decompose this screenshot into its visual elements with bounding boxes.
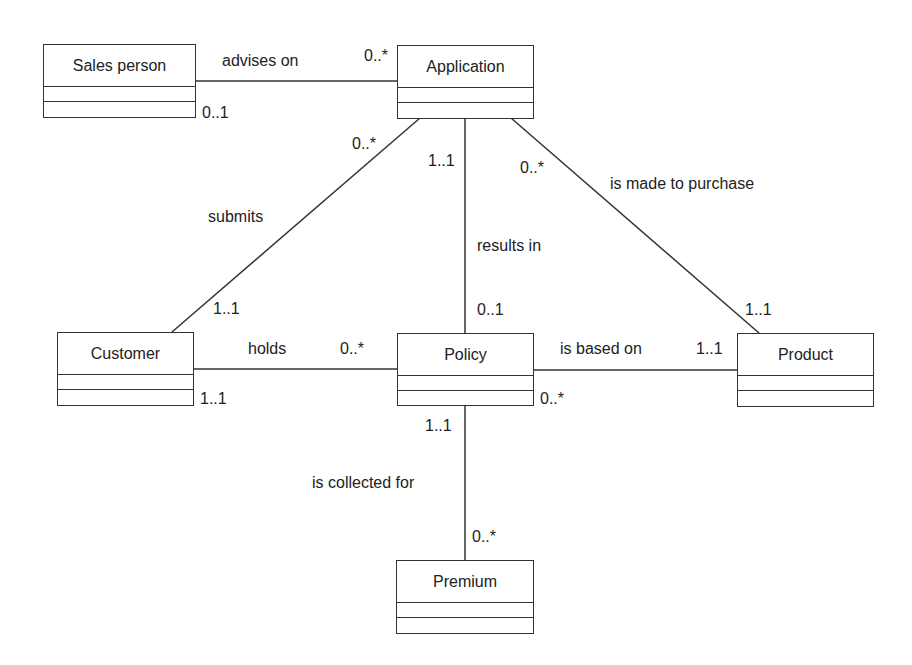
attributes-compartment (44, 87, 195, 102)
class-sales-person: Sales person (43, 44, 196, 118)
attributes-compartment (398, 88, 533, 103)
attributes-compartment (397, 603, 533, 618)
mult-advises-on-sales-person: 0..1 (202, 105, 229, 121)
mult-based-on-policy: 0..* (540, 391, 564, 407)
class-application: Application (397, 45, 534, 119)
label-holds: holds (248, 341, 286, 357)
attributes-compartment (398, 376, 533, 391)
attributes-compartment (738, 376, 873, 391)
line-is-made-to-purchase (511, 118, 759, 333)
class-name: Product (738, 334, 873, 376)
label-results-in: results in (477, 238, 541, 254)
attributes-compartment (58, 375, 193, 390)
class-name: Sales person (44, 45, 195, 87)
mult-advises-on-application: 0..* (364, 48, 388, 64)
mult-collected-policy: 1..1 (425, 418, 452, 434)
class-name: Policy (398, 334, 533, 376)
label-submits: submits (208, 209, 263, 225)
mult-purchase-application: 0..* (520, 160, 544, 176)
mult-holds-customer: 1..1 (200, 391, 227, 407)
label-advises-on: advises on (222, 53, 299, 69)
operations-compartment (398, 103, 533, 117)
mult-submits-application: 0..* (352, 136, 376, 152)
label-is-made-to-purchase: is made to purchase (610, 176, 754, 192)
mult-submits-customer: 1..1 (213, 301, 240, 317)
mult-based-on-product: 1..1 (696, 341, 723, 357)
mult-purchase-product: 1..1 (745, 302, 772, 318)
operations-compartment (58, 390, 193, 404)
label-is-collected-for: is collected for (312, 475, 414, 491)
class-policy: Policy (397, 333, 534, 406)
label-is-based-on: is based on (560, 341, 642, 357)
class-name: Application (398, 46, 533, 88)
class-name: Premium (397, 561, 533, 603)
mult-holds-policy: 0..* (340, 341, 364, 357)
mult-collected-premium: 0..* (472, 529, 496, 545)
mult-results-in-application: 1..1 (428, 153, 455, 169)
operations-compartment (44, 102, 195, 116)
operations-compartment (397, 618, 533, 632)
class-premium: Premium (396, 560, 534, 634)
class-customer: Customer (57, 332, 194, 406)
mult-results-in-policy: 0..1 (477, 302, 504, 318)
line-submits (172, 118, 420, 332)
operations-compartment (738, 391, 873, 405)
class-name: Customer (58, 333, 193, 375)
class-product: Product (737, 333, 874, 407)
operations-compartment (398, 391, 533, 405)
